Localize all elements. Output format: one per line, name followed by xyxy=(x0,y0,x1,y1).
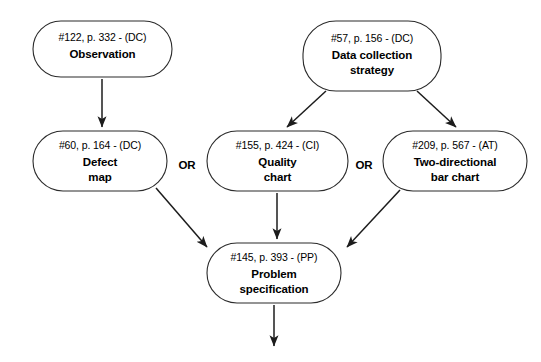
or-label-left: OR xyxy=(178,159,196,171)
node-problem-specification[interactable]: #145, p. 393 - (PP) Problem specificatio… xyxy=(207,243,341,303)
process-flow-diagram: #122, p. 332 - (DC) Observation #57, p. … xyxy=(0,0,541,362)
diagram-canvas: #122, p. 332 - (DC) Observation #57, p. … xyxy=(0,0,541,362)
or-label-right: OR xyxy=(355,159,373,171)
node-observation-title-line1: Observation xyxy=(69,48,135,60)
node-quality-chart-title-line1: Quality xyxy=(258,156,297,168)
node-defect-map[interactable]: #60, p. 164 - (DC) Defect map xyxy=(33,131,167,191)
arrow-strategy-to-quality-chart xyxy=(287,91,326,127)
node-quality-chart[interactable]: #155, p. 424 - (CI) Quality chart xyxy=(207,131,348,191)
arrow-bar-chart-to-problem-spec xyxy=(347,190,400,247)
node-defect-map-ref: #60, p. 164 - (DC) xyxy=(59,139,141,151)
node-data-collection-strategy-title-line1: Data collection xyxy=(332,49,412,61)
node-data-collection-strategy-ref: #57, p. 156 - (DC) xyxy=(331,32,413,44)
node-problem-specification-title-line1: Problem xyxy=(251,268,296,280)
node-observation-ref: #122, p. 332 - (DC) xyxy=(59,31,147,43)
node-data-collection-strategy-title-line2: strategy xyxy=(350,64,395,76)
node-problem-specification-title-line2: specification xyxy=(240,283,309,295)
node-defect-map-title-line2: map xyxy=(88,171,111,183)
connector-group xyxy=(102,79,456,346)
node-two-directional-bar-chart-ref: #209, p. 567 - (AT) xyxy=(412,139,497,151)
node-quality-chart-title-line2: chart xyxy=(264,171,292,183)
node-problem-specification-ref: #145, p. 393 - (PP) xyxy=(231,251,318,263)
arrow-defect-map-to-problem-spec xyxy=(156,188,207,247)
arrow-strategy-to-bar-chart xyxy=(417,91,456,127)
node-quality-chart-ref: #155, p. 424 - (CI) xyxy=(236,139,319,151)
node-two-directional-bar-chart[interactable]: #209, p. 567 - (AT) Two-directional bar … xyxy=(383,131,527,191)
node-defect-map-title-line1: Defect xyxy=(83,156,118,168)
node-two-directional-bar-chart-title-line1: Two-directional xyxy=(414,156,497,168)
node-data-collection-strategy[interactable]: #57, p. 156 - (DC) Data collection strat… xyxy=(303,21,441,91)
node-two-directional-bar-chart-title-line2: bar chart xyxy=(431,171,480,183)
node-observation[interactable]: #122, p. 332 - (DC) Observation xyxy=(33,21,172,77)
